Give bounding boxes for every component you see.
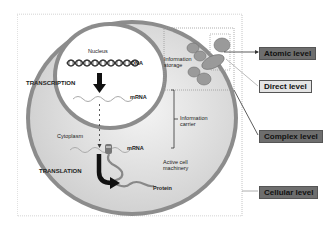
cellular-level-label: Cellular level [259, 186, 318, 199]
active-cell-machinery-line2: machinery [163, 166, 188, 172]
active-cell-machinery-label: Active cell machinery [163, 160, 188, 172]
information-carrier-line2: carrier [180, 122, 208, 128]
cytoplasm-label: Cytoplasm [57, 134, 83, 140]
atomic-level-label: Atomic level [259, 47, 316, 60]
information-carrier-label: Information carrier [180, 116, 208, 128]
nucleus-label: Nucleus [88, 49, 108, 55]
translation-label: TRANSLATION [39, 168, 82, 174]
transcription-label: TRANSCRIPTION [26, 80, 75, 86]
mrna-nucleus-label: mRNA [130, 95, 147, 101]
information-storage-label: Information storage [164, 57, 192, 69]
protein-label: Protein [153, 186, 172, 192]
information-storage-line2: storage [164, 63, 192, 69]
mrna-cytoplasm-label: mRNA [127, 146, 144, 152]
direct-level-label: Direct level [259, 80, 312, 93]
nucleus [53, 22, 167, 130]
dna-label: DNA [131, 61, 143, 67]
complex-level-label: Complex level [259, 130, 323, 143]
ribosome-icon [105, 144, 112, 154]
